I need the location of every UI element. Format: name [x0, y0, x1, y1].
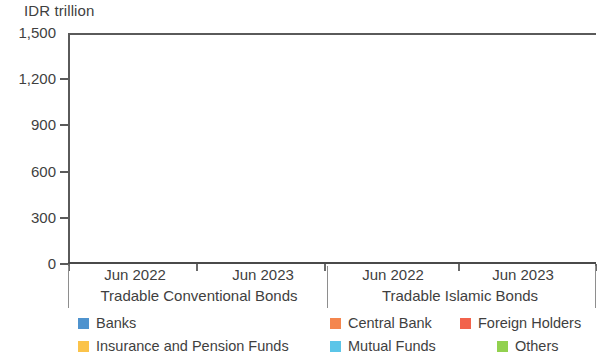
x-axis-period-label: Jun 2022 [362, 266, 424, 283]
legend-item[interactable]: Others [497, 338, 559, 354]
y-axis-tick-label: 1,200 [18, 70, 56, 87]
y-axis-tick [60, 124, 68, 126]
plot-frame [68, 33, 596, 264]
legend-swatch-icon [330, 341, 341, 352]
y-axis-tick [60, 78, 68, 80]
y-axis-tick [60, 171, 68, 173]
legend-label: Insurance and Pension Funds [96, 338, 289, 354]
x-axis-period-label: Jun 2023 [492, 266, 554, 283]
legend-label: Banks [96, 315, 136, 331]
legend-label: Foreign Holders [478, 315, 581, 331]
legend-swatch-icon [78, 318, 89, 329]
legend-swatch-icon [330, 318, 341, 329]
x-axis-baseline [68, 262, 596, 264]
x-axis-period-label: Jun 2022 [104, 266, 166, 283]
x-axis-section-label: Tradable Islamic Bonds [382, 287, 538, 304]
y-axis-tick-label: 600 [31, 163, 56, 180]
legend-swatch-icon [497, 341, 508, 352]
y-axis-tick-label: 300 [31, 209, 56, 226]
x-axis-section-label: Tradable Conventional Bonds [100, 287, 297, 304]
legend-swatch-icon [78, 341, 89, 352]
legend-swatch-icon [460, 318, 471, 329]
plot-area: 03006009001,2001,500 [68, 33, 596, 264]
legend-label: Mutual Funds [348, 338, 436, 354]
legend-label: Others [515, 338, 559, 354]
legend-item[interactable]: Banks [78, 315, 136, 331]
x-axis-section-divider [327, 266, 328, 308]
y-axis-title: IDR trillion [24, 2, 94, 19]
x-axis-labels: Jun 2022Jun 2023Jun 2022Jun 2023Tradable… [68, 266, 596, 310]
legend-item[interactable]: Mutual Funds [330, 338, 436, 354]
legend-item[interactable]: Insurance and Pension Funds [78, 338, 289, 354]
legend-item[interactable]: Foreign Holders [460, 315, 581, 331]
y-axis-tick [60, 263, 68, 265]
y-axis-tick-label: 900 [31, 117, 56, 134]
legend-label: Central Bank [348, 315, 432, 331]
legend-item[interactable]: Central Bank [330, 315, 432, 331]
legend: BanksCentral BankForeign HoldersInsuranc… [0, 315, 608, 360]
y-axis-tick-label: 1,500 [18, 24, 56, 41]
x-axis-section-divider [68, 266, 69, 308]
y-axis-tick [60, 217, 68, 219]
x-axis-period-label: Jun 2023 [232, 266, 294, 283]
y-axis-tick-label: 0 [48, 255, 56, 272]
x-axis-section-divider [595, 266, 596, 308]
bar-chart: IDR trillion 03006009001,2001,500 Jun 20… [0, 0, 608, 360]
